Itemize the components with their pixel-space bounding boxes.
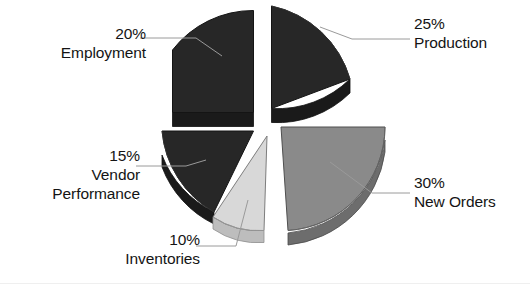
- slice-percent-inventories: 10%: [0, 230, 200, 249]
- slice-percent-employment: 20%: [0, 24, 146, 43]
- slice-side-employment: [173, 113, 254, 127]
- pie-chart-page: 20% Employment 15% Vendor Performance 10…: [0, 0, 530, 299]
- slice-label-new-orders: 30% New Orders: [414, 173, 530, 211]
- slice-name-vendor-line2: Performance: [0, 184, 140, 203]
- slice-name-production: Production: [414, 33, 530, 52]
- slice-label-employment: 20% Employment: [0, 24, 146, 62]
- slice-percent-vendor-performance: 15%: [0, 146, 140, 165]
- slice-label-vendor-performance: 15% Vendor Performance: [0, 146, 140, 203]
- leader-line-production: [320, 27, 410, 39]
- slice-label-production: 25% Production: [414, 14, 530, 52]
- slice-name-new-orders: New Orders: [414, 192, 530, 211]
- slice-label-inventories: 10% Inventories: [0, 230, 200, 268]
- slice-name-inventories: Inventories: [0, 249, 200, 268]
- scan-artifact-line: [0, 283, 530, 284]
- slice-name-vendor-line1: Vendor: [0, 165, 140, 184]
- slice-name-employment: Employment: [0, 43, 146, 62]
- slice-top-new-orders: [281, 127, 385, 231]
- slice-percent-production: 25%: [414, 14, 530, 33]
- slice-percent-new-orders: 30%: [414, 173, 530, 192]
- slice-top-employment: [173, 10, 254, 112]
